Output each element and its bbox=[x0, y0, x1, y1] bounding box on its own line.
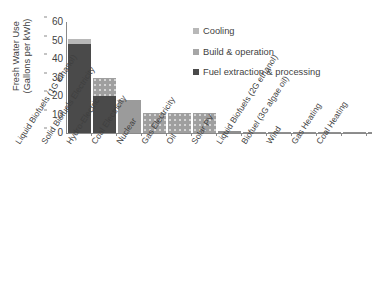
legend-item-fuel-extraction[interactable]: Fuel extraction & processing bbox=[193, 67, 320, 77]
x-label-oil: Oil bbox=[165, 132, 178, 146]
y-tick-mark bbox=[44, 35, 47, 36]
legend-label-cooling: Cooling bbox=[203, 26, 235, 36]
y-tick-label-40: 40 bbox=[47, 54, 63, 64]
legend-swatch-icon bbox=[193, 49, 199, 55]
bar-segment-build bbox=[93, 78, 116, 97]
legend-item-build-operation[interactable]: Build & operation bbox=[193, 47, 320, 57]
legend-item-cooling[interactable]: Cooling bbox=[193, 26, 320, 36]
legend-swatch-icon bbox=[193, 28, 199, 34]
legend-label-build-operation: Build & operation bbox=[203, 47, 274, 57]
bar-segment-fuel bbox=[343, 132, 366, 133]
bar-segment-fuel bbox=[368, 132, 372, 133]
y-tick-mark bbox=[44, 54, 47, 55]
x-tick-mark bbox=[366, 133, 367, 136]
y-axis-title-line-2: (Gallons per kWh) bbox=[22, 19, 34, 94]
water-use-bar-chart: Fresh Water Use (Gallons per kWh) 60 50 … bbox=[0, 0, 376, 281]
bar-segment-build bbox=[168, 113, 191, 133]
legend-label-fuel-extraction: Fuel extraction & processing bbox=[203, 67, 320, 77]
y-tick-mark bbox=[44, 17, 47, 18]
y-axis-title-line-1: Fresh Water Use bbox=[11, 21, 23, 91]
y-axis-title: Fresh Water Use (Gallons per kWh) bbox=[5, 1, 39, 111]
y-tick-label-50: 50 bbox=[47, 36, 63, 46]
y-tick-mark bbox=[44, 72, 47, 73]
bar-gas-heating[interactable] bbox=[343, 132, 366, 133]
y-tick-label-60: 60 bbox=[47, 17, 63, 27]
bar-coal-heating[interactable] bbox=[368, 132, 372, 133]
chart-legend: Cooling Build & operation Fuel extractio… bbox=[193, 26, 320, 77]
x-tick-mark bbox=[341, 133, 342, 136]
bar-nuclear[interactable] bbox=[168, 113, 191, 133]
legend-swatch-icon bbox=[193, 69, 199, 75]
